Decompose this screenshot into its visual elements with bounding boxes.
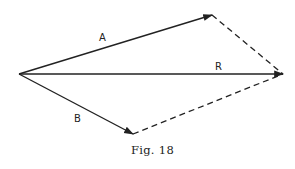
dashed-line-b-to-r — [133, 74, 283, 134]
figure-caption: Fig. 18 — [0, 143, 295, 157]
vector-a-label: A — [99, 32, 106, 43]
vector-a-arrow — [19, 15, 212, 74]
vector-b-label: B — [74, 113, 81, 124]
vector-b-arrow — [19, 74, 133, 134]
dashed-line-a-to-r — [212, 15, 283, 74]
vector-r-label: R — [215, 61, 222, 72]
